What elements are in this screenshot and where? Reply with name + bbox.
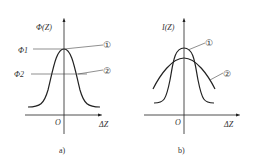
phi1-label: Φ1 [18, 46, 28, 55]
callout-1-leader-b [188, 43, 205, 50]
x-label-a: ΔZ [98, 120, 109, 129]
callout-2-b: ② [223, 69, 231, 79]
diagram: Φ(Z) Φ1 Φ2 ① ② O ΔZ a) I(Z) ① ② O ΔZ b) [0, 0, 254, 163]
caption-a: a) [59, 146, 66, 155]
callout-2-a: ② [103, 66, 111, 76]
callout-2-leader-a [78, 70, 103, 74]
callout-1-b: ① [205, 38, 213, 48]
origin-label-b: O [175, 118, 181, 127]
x-label-b: ΔZ [223, 120, 234, 129]
y-label-b: I(Z) [161, 23, 175, 32]
origin-label-a: O [55, 118, 61, 127]
callout-1-a: ① [103, 40, 111, 50]
callout-1-leader-a [64, 45, 103, 49]
caption-b: b) [178, 146, 185, 155]
y-label-a: Φ(Z) [36, 23, 52, 32]
panel-b: I(Z) ① ② O ΔZ b) [144, 20, 238, 155]
phi2-label: Φ2 [14, 70, 24, 79]
panel-a: Φ(Z) Φ1 Φ2 ① ② O ΔZ a) [14, 20, 111, 155]
callout-2-leader-b [210, 73, 223, 80]
